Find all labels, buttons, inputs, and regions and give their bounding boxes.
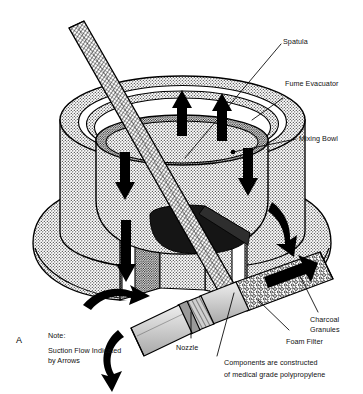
leader-dot-mixing-bowl	[231, 150, 236, 155]
label-charcoal: Charcoal	[310, 315, 340, 324]
label-spatula: Spatula	[283, 37, 308, 46]
note-line-1: Suction Flow Indicated	[48, 346, 121, 355]
label-mixing-bowl: Mixing Bowl	[299, 134, 338, 143]
label-granules: Granules	[310, 325, 340, 334]
figure-letter-label: A	[16, 335, 22, 345]
figure-container: Spatula Fume Evacuator Mixing Bowl Charc…	[0, 0, 363, 394]
label-nozzle: Nozzle	[176, 343, 198, 352]
label-foam-filter: Foam Filter	[286, 337, 323, 346]
label-fume-evacuator: Fume Evacuator	[285, 79, 339, 88]
note-line-2: by Arrows	[48, 356, 80, 365]
caption-line-1: Components are constructed	[224, 358, 318, 367]
note-heading: Note:	[48, 331, 65, 340]
caption-line-2: of medical grade polypropylene	[224, 370, 325, 379]
fume-evacuator-cutaway-drawing: Spatula Fume Evacuator Mixing Bowl Charc…	[0, 0, 363, 394]
